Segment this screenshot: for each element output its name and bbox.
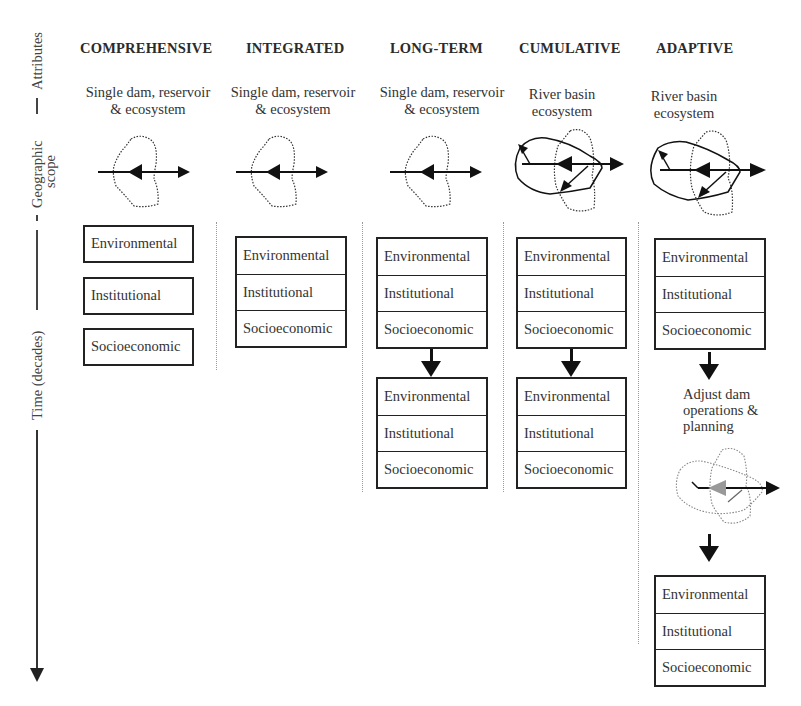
- stage-box: Environmental Institutional Socioeconomi…: [376, 377, 488, 489]
- scope-line: River basin: [522, 86, 602, 103]
- scope-line: ecosystem: [644, 105, 724, 122]
- stage-box: Environmental Institutional Socioeconomi…: [235, 236, 347, 348]
- box-socioeconomic: Socioeconomic: [83, 328, 194, 366]
- axis-label-time: Time (decades): [30, 331, 44, 420]
- cell-institutional: Institutional: [518, 416, 625, 453]
- river-basin-icon: [646, 128, 776, 218]
- cell-socioeconomic: Socioeconomic: [656, 650, 764, 687]
- scope-cumulative: River basin ecosystem: [522, 86, 602, 120]
- cell-socioeconomic: Socioeconomic: [518, 452, 625, 489]
- single-dam-icon: [96, 134, 196, 209]
- cell-socioeconomic: Socioeconomic: [237, 311, 345, 348]
- column-divider: [362, 222, 363, 492]
- scope-line: & ecosystem: [223, 101, 363, 118]
- down-arrow-icon: [699, 534, 719, 564]
- scope-line: Single dam, reservoir: [223, 84, 363, 101]
- column-divider: [216, 222, 217, 370]
- scope-line: & ecosystem: [78, 101, 218, 118]
- cell-environmental: Environmental: [656, 240, 764, 277]
- cell-environmental: Environmental: [518, 379, 625, 416]
- cell-institutional: Institutional: [656, 614, 764, 651]
- title-long-term: LONG-TERM: [390, 40, 483, 57]
- down-arrow-icon: [421, 349, 441, 377]
- scope-integrated: Single dam, reservoir & ecosystem: [223, 84, 363, 118]
- axis-dash-2: [36, 215, 38, 221]
- stage-box: Environmental Institutional Socioeconomi…: [376, 237, 488, 349]
- box-environmental: Environmental: [83, 225, 194, 263]
- adjust-line: Adjust dam: [683, 386, 758, 402]
- title-integrated: INTEGRATED: [246, 40, 344, 57]
- cell-institutional: Institutional: [237, 275, 345, 312]
- scope-comprehensive: Single dam, reservoir & ecosystem: [78, 84, 218, 118]
- scope-line: Single dam, reservoir: [78, 84, 218, 101]
- river-basin-icon: [510, 126, 630, 216]
- time-axis-line: [36, 430, 38, 670]
- scope-line: River basin: [644, 88, 724, 105]
- cell-environmental: Environmental: [378, 239, 486, 276]
- time-axis-arrowhead-icon: [30, 668, 44, 684]
- axis-dash-1: [36, 98, 38, 114]
- down-arrow-icon: [561, 349, 581, 377]
- column-divider: [638, 222, 639, 644]
- cell-socioeconomic: Socioeconomic: [378, 452, 486, 489]
- cell-environmental: Environmental: [518, 239, 625, 276]
- axis-label-attributes: Attributes: [30, 32, 44, 90]
- scope-line: ecosystem: [522, 103, 602, 120]
- down-arrow-icon: [699, 352, 719, 382]
- adjust-line: planning: [683, 418, 758, 434]
- scope-long-term: Single dam, reservoir & ecosystem: [372, 84, 512, 118]
- scope-line: & ecosystem: [372, 101, 512, 118]
- scope-adaptive: River basin ecosystem: [644, 88, 724, 122]
- cell-environmental: Environmental: [237, 238, 345, 275]
- cell-socioeconomic: Socioeconomic: [518, 312, 625, 349]
- box-institutional: Institutional: [83, 277, 194, 315]
- axis-label-scope: scope: [43, 155, 57, 188]
- cell-institutional: Institutional: [378, 416, 486, 453]
- scope-line: Single dam, reservoir: [372, 84, 512, 101]
- adjusted-basin-icon: [672, 446, 787, 536]
- adjust-line: operations &: [683, 402, 758, 418]
- title-adaptive: ADAPTIVE: [656, 40, 733, 57]
- cell-environmental: Environmental: [656, 577, 764, 614]
- cell-institutional: Institutional: [518, 276, 625, 313]
- single-dam-icon: [234, 134, 334, 209]
- stage-box: Environmental Institutional Socioeconomi…: [516, 237, 627, 349]
- cell-socioeconomic: Socioeconomic: [656, 313, 764, 350]
- cell-institutional: Institutional: [656, 277, 764, 314]
- column-divider: [503, 222, 504, 492]
- stage-box: Environmental Institutional Socioeconomi…: [516, 377, 627, 489]
- cell-socioeconomic: Socioeconomic: [378, 312, 486, 349]
- stage-box: Environmental Institutional Socioeconomi…: [654, 575, 766, 687]
- axis-line-segment: [36, 230, 38, 310]
- stage-box: Environmental Institutional Socioeconomi…: [654, 238, 766, 350]
- cell-institutional: Institutional: [378, 276, 486, 313]
- single-dam-icon: [388, 134, 488, 209]
- title-cumulative: CUMULATIVE: [519, 40, 621, 57]
- adjust-step-label: Adjust dam operations & planning: [683, 386, 758, 434]
- cell-environmental: Environmental: [378, 379, 486, 416]
- title-comprehensive: COMPREHENSIVE: [80, 40, 212, 57]
